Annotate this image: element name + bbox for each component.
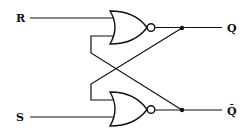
r-input-label: R bbox=[16, 12, 26, 25]
q-feedback-wire bbox=[91, 28, 182, 100]
top-nor-gate bbox=[110, 11, 155, 44]
sr-latch-diagram: R Q Q̄ S bbox=[0, 0, 246, 140]
nor-gate-body-icon bbox=[110, 92, 147, 126]
inverter-bubble-icon bbox=[147, 24, 155, 32]
nor-gate-body-icon bbox=[110, 11, 147, 44]
qbar-junction-dot bbox=[180, 108, 184, 112]
qbar-output-label: Q̄ bbox=[227, 104, 237, 118]
q-output-label: Q bbox=[227, 22, 237, 35]
s-input-label: S bbox=[16, 111, 24, 124]
inverter-bubble-icon bbox=[147, 106, 155, 114]
bottom-nor-gate bbox=[110, 92, 155, 126]
